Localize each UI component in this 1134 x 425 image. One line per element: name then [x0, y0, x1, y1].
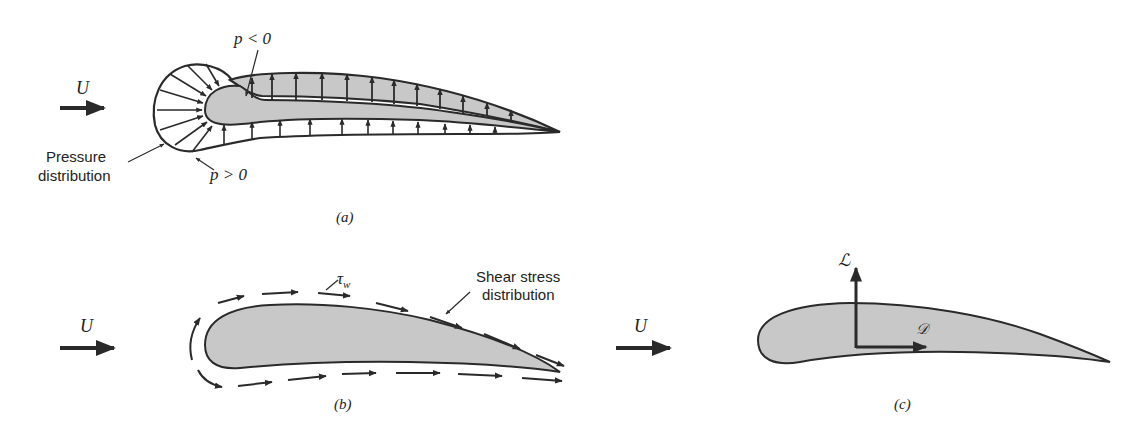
pressure-leader: [196, 158, 214, 170]
freestream-arrow-a: U: [60, 78, 104, 108]
pressure-distribution-label-line2: distribution: [38, 167, 111, 184]
caption-a: (a): [336, 209, 354, 226]
lift-label: ℒ: [838, 250, 851, 270]
shear-distribution-label-line2: distribution: [482, 286, 555, 303]
caption-c: (c): [894, 396, 911, 413]
freestream-label-c: U: [634, 316, 648, 336]
shear-distribution-label-line1: Shear stress: [476, 268, 560, 285]
pressure-distribution-leader: [128, 144, 164, 162]
freestream-label-b: U: [80, 316, 94, 336]
shear-distribution-leader: [446, 292, 470, 314]
airfoil-forces-figure: U: [0, 0, 1134, 425]
suction-label: p < 0: [233, 29, 271, 48]
pressure-distribution-label-line1: Pressure: [46, 148, 106, 165]
pressure-envelope-lower: [200, 132, 560, 150]
caption-b: (b): [334, 396, 352, 413]
wall-shear-label: τw: [337, 269, 351, 290]
freestream-label-a: U: [76, 78, 90, 98]
airfoil-c: [758, 303, 1110, 363]
pressure-label: p > 0: [209, 165, 247, 184]
panel-a: U: [38, 29, 560, 226]
panel-c: U ℒ 𝒟 (c): [616, 250, 1110, 413]
panel-b: U τw Shear stress distribution (b): [60, 268, 564, 413]
airfoil-b: [205, 304, 560, 372]
